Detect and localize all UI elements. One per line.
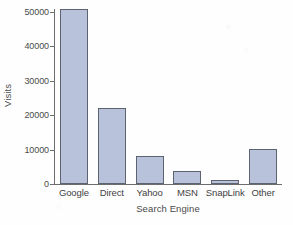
bar: [173, 171, 201, 184]
x-axis-title: Search Engine: [54, 203, 282, 214]
y-axis-tick-label: 40000: [24, 41, 49, 51]
y-axis-tick-mark: [50, 46, 54, 47]
y-axis-tick-mark: [50, 12, 54, 13]
x-axis-tick-label: SnapLink: [206, 187, 245, 198]
bar: [136, 156, 164, 184]
y-axis-tick-mark: [50, 184, 54, 185]
y-axis-tick-mark: [50, 115, 54, 116]
y-axis-tick-mark: [50, 81, 54, 82]
y-axis-tick-mark: [50, 150, 54, 151]
x-axis-tick-label: Other: [251, 187, 274, 198]
x-axis-tick-labels: GoogleDirectYahooMSNSnapLinkOther: [54, 187, 282, 203]
y-axis-title-text: Visits: [3, 83, 14, 106]
y-axis-tick-labels: 01000020000300004000050000: [14, 0, 52, 190]
y-axis-tick-label: 20000: [24, 110, 49, 120]
bar: [249, 149, 277, 184]
x-axis-tick-label: MSN: [177, 187, 198, 198]
x-axis-line: [54, 184, 282, 185]
bar-chart: Visits 01000020000300004000050000 Google…: [0, 0, 293, 225]
y-axis-tick-label: 50000: [24, 7, 49, 17]
plot-area: [54, 9, 282, 185]
x-axis-tick-label: Direct: [100, 187, 124, 198]
bar: [98, 108, 126, 184]
y-axis-tick-label: 10000: [24, 145, 49, 155]
x-axis-tick-label: Yahoo: [136, 187, 162, 198]
bar: [211, 180, 239, 184]
bar: [60, 9, 88, 184]
bar-series: [55, 9, 282, 184]
y-axis-tick-label: 0: [44, 179, 49, 189]
y-axis-tick-label: 30000: [24, 76, 49, 86]
x-axis-tick-label: Google: [59, 187, 89, 198]
